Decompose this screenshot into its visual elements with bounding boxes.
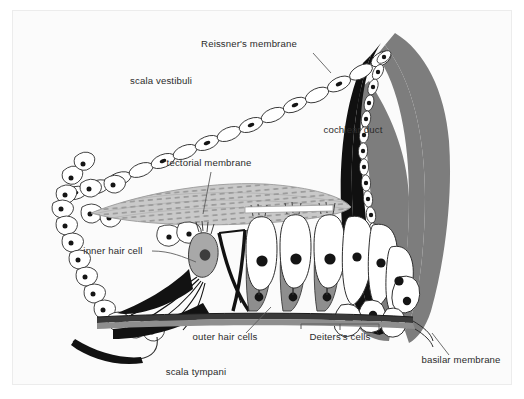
label-text-outer-hair-cells: outer hair cells xyxy=(193,331,258,342)
diagram-frame: Reissner's membrane scala vestibuli coch… xyxy=(12,10,512,385)
label-basilar-membrane: basilar membrane xyxy=(421,333,500,365)
cochlear-duct-diagram: Reissner's membrane scala vestibuli coch… xyxy=(13,11,512,385)
tectorial-membrane xyxy=(91,184,351,225)
label-text-tectorial-membrane: tectorial membrane xyxy=(167,157,252,168)
leader-reissners-membrane xyxy=(313,53,331,73)
figure-root: Reissner's membrane scala vestibuli coch… xyxy=(0,0,524,399)
basilar-membrane xyxy=(97,313,415,329)
label-text-scala-vestibuli: scala vestibuli xyxy=(130,75,192,86)
label-text-basilar-membrane: basilar membrane xyxy=(421,354,500,365)
leader-basilar-membrane xyxy=(432,333,449,355)
label-text-cochlear-duct: cochlear duct xyxy=(323,124,382,135)
pillar-cells xyxy=(219,230,249,311)
label-reissners-membrane: Reissner's membrane xyxy=(201,38,331,73)
habenula-mass xyxy=(71,339,143,364)
label-inner-hair-cell: inner hair cell xyxy=(83,245,196,262)
label-text-reissners-membrane: Reissner's membrane xyxy=(201,38,297,49)
nerve-bundle-mass xyxy=(117,269,193,314)
label-text-inner-hair-cell: inner hair cell xyxy=(83,245,142,256)
label-text-deiterss-cells: Deiters's cells xyxy=(309,331,370,342)
label-text-scala-tympani: scala tympani xyxy=(166,366,227,377)
